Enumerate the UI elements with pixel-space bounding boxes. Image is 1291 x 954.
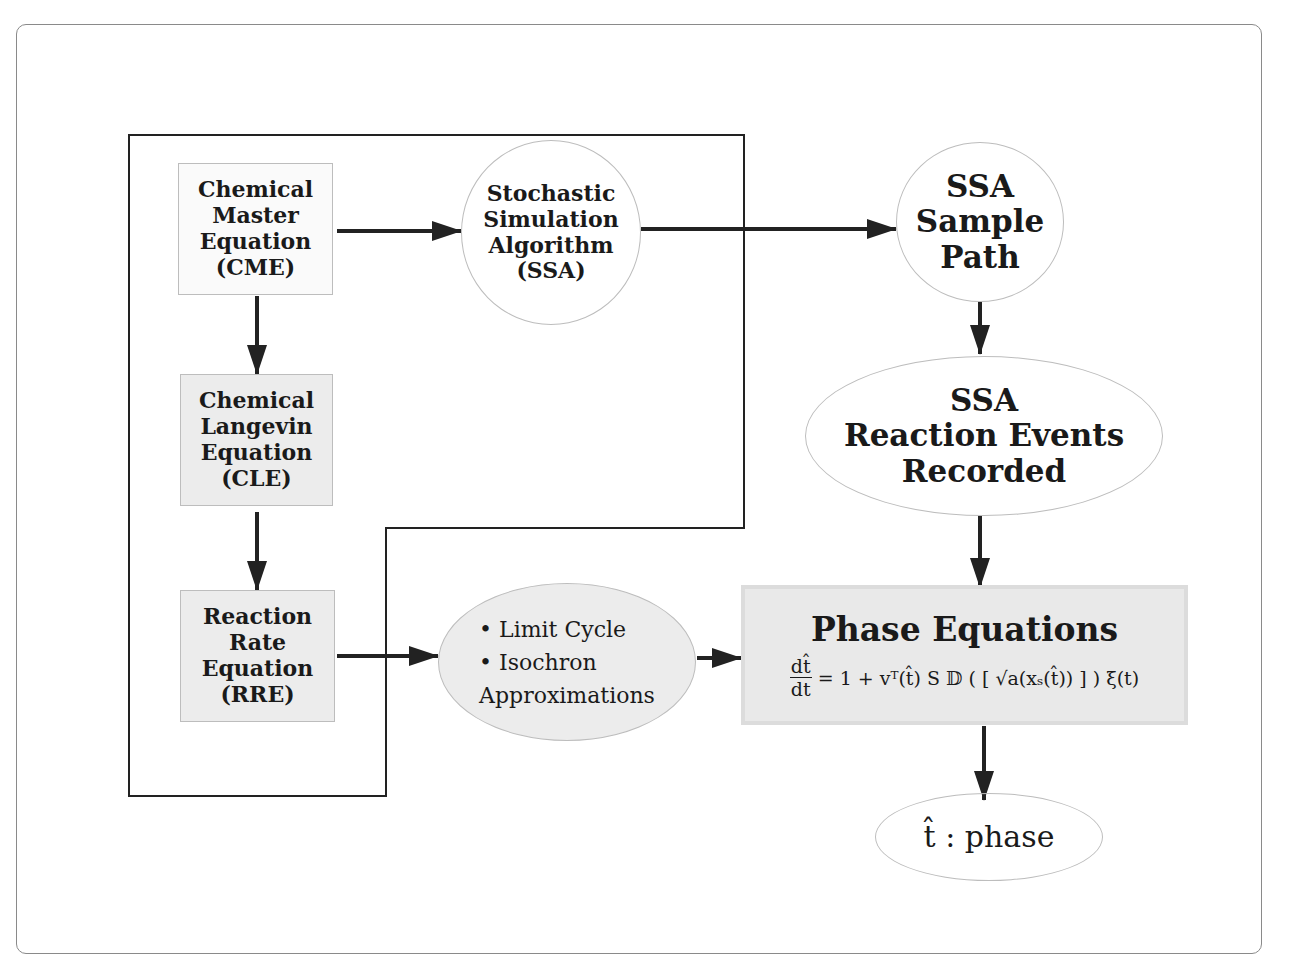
node-label-line: (CLE)	[199, 466, 314, 492]
phase-equation: dt̂ dt = 1 + vᵀ(t̂) S 𝔻 ( [ √a(xₛ(t̂)) ]…	[790, 655, 1139, 700]
node-label-line: SSA	[916, 169, 1044, 205]
node-label-line: Equation	[202, 656, 314, 682]
node-label-line: SSA	[844, 383, 1124, 419]
node-label-line: Equation	[199, 440, 314, 466]
node-label-line: Simulation	[483, 207, 618, 233]
node-label-line: Recorded	[844, 454, 1124, 490]
phase-equations-title: Phase Equations	[811, 610, 1118, 649]
node-label-line: Reaction	[202, 604, 314, 630]
node-label-line: Algorithm	[483, 233, 618, 259]
node-label-line: Approximations	[479, 679, 655, 712]
node-cle: Chemical Langevin Equation (CLE)	[180, 374, 333, 506]
node-label-line: Rate	[202, 630, 314, 656]
fraction-numerator: dt̂	[790, 655, 812, 678]
equation-rhs: = 1 + vᵀ(t̂) S 𝔻 ( [ √a(xₛ(t̂)) ] ) ξ(t)	[818, 667, 1139, 689]
node-ssa-algorithm: Stochastic Simulation Algorithm (SSA)	[461, 140, 641, 325]
node-approximations: • Limit Cycle • Isochron Approximations	[438, 583, 696, 741]
node-label-line: (RRE)	[202, 682, 314, 708]
node-phase-equations: Phase Equations dt̂ dt = 1 + vᵀ(t̂) S 𝔻 …	[741, 585, 1188, 725]
node-label-line: • Limit Cycle	[479, 613, 655, 646]
node-label-line: Chemical	[198, 177, 313, 203]
node-label-line: Path	[916, 240, 1044, 276]
node-label-line: Sample	[916, 204, 1044, 240]
node-label-line: Reaction Events	[844, 418, 1124, 454]
node-ssa-events: SSA Reaction Events Recorded	[805, 356, 1163, 516]
node-label-line: Equation	[198, 229, 313, 255]
derivative-fraction: dt̂ dt	[790, 655, 812, 700]
node-rre: Reaction Rate Equation (RRE)	[180, 590, 335, 722]
node-label-line: Stochastic	[483, 181, 618, 207]
node-label-line: Langevin	[199, 414, 314, 440]
node-label-line: Master	[198, 203, 313, 229]
node-cme: Chemical Master Equation (CME)	[178, 163, 333, 295]
fraction-denominator: dt	[791, 678, 811, 700]
node-phase-output: t̂ : phase	[875, 793, 1103, 881]
node-ssa-sample-path: SSA Sample Path	[896, 142, 1064, 302]
node-label-line: Chemical	[199, 388, 314, 414]
phase-output-label: t̂ : phase	[924, 819, 1055, 854]
node-label-line: (SSA)	[483, 258, 618, 284]
node-label-line: • Isochron	[479, 646, 655, 679]
node-label-line: (CME)	[198, 255, 313, 281]
